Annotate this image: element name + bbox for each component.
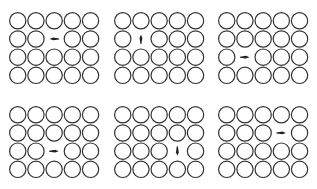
panel-3 (217, 11, 309, 85)
circle (28, 31, 44, 47)
circle (133, 161, 149, 177)
arrow-right-icon (276, 132, 286, 135)
circle (133, 107, 149, 123)
circle (187, 125, 203, 141)
circle (255, 125, 271, 141)
circle (64, 67, 80, 83)
circle-grid (217, 105, 309, 179)
circle (291, 49, 307, 65)
circle (115, 13, 131, 29)
circle (64, 49, 80, 65)
circle (115, 161, 131, 177)
circle (28, 67, 44, 83)
circle (219, 67, 235, 83)
circle (169, 107, 185, 123)
circle (64, 125, 80, 141)
circle (255, 49, 271, 65)
circle (115, 31, 131, 47)
circle (10, 67, 26, 83)
circle (273, 13, 289, 29)
circle (151, 49, 167, 65)
circle (273, 143, 289, 159)
circle (219, 107, 235, 123)
circle (151, 31, 167, 47)
circle (237, 161, 253, 177)
circle (10, 31, 26, 47)
circle (169, 161, 185, 177)
circle (237, 143, 253, 159)
circle (187, 67, 203, 83)
circle (151, 67, 167, 83)
circle (169, 49, 185, 65)
circle (291, 67, 307, 83)
circle (255, 161, 271, 177)
circle (291, 13, 307, 29)
circle (237, 107, 253, 123)
circle (28, 125, 44, 141)
circle-grid (8, 105, 100, 179)
arrow-right-icon (240, 56, 250, 59)
circle (255, 31, 271, 47)
circle (133, 143, 149, 159)
circle (255, 13, 271, 29)
circle (115, 107, 131, 123)
circle-grid (113, 11, 205, 85)
circle (273, 31, 289, 47)
panel-4 (8, 105, 100, 179)
circle-grid (217, 11, 309, 85)
circle (237, 125, 253, 141)
circle (187, 31, 203, 47)
circle (28, 49, 44, 65)
circle (169, 125, 185, 141)
circle (237, 13, 253, 29)
circle (169, 31, 185, 47)
circle (10, 143, 26, 159)
circle (291, 161, 307, 177)
circle (46, 125, 62, 141)
circle (10, 107, 26, 123)
circle (133, 13, 149, 29)
circle (82, 107, 98, 123)
circle (64, 107, 80, 123)
circle-grid (8, 11, 100, 85)
circle (273, 107, 289, 123)
panel-2 (113, 11, 205, 85)
circle (133, 49, 149, 65)
circle (291, 125, 307, 141)
circle (10, 161, 26, 177)
circle (187, 143, 203, 159)
circle (115, 49, 131, 65)
circle (219, 31, 235, 47)
circle (10, 125, 26, 141)
circle (255, 143, 271, 159)
circle (151, 125, 167, 141)
circle (64, 161, 80, 177)
circle (82, 125, 98, 141)
circle (273, 67, 289, 83)
panel-1 (8, 11, 100, 85)
circle (46, 49, 62, 65)
circle (273, 161, 289, 177)
arrow-up-icon (140, 34, 143, 44)
circle (46, 13, 62, 29)
circle (255, 67, 271, 83)
panel-6 (217, 105, 309, 179)
circle (187, 49, 203, 65)
circle (28, 143, 44, 159)
circle (255, 107, 271, 123)
circle (169, 13, 185, 29)
circle (82, 161, 98, 177)
circle (187, 13, 203, 29)
circle (46, 67, 62, 83)
circle (151, 13, 167, 29)
circle (28, 161, 44, 177)
circle (291, 31, 307, 47)
circle (273, 49, 289, 65)
circle (82, 67, 98, 83)
circle (64, 31, 80, 47)
circle (151, 143, 167, 159)
arrow-right-icon (49, 150, 59, 153)
circle (237, 67, 253, 83)
circle (291, 143, 307, 159)
circle (219, 143, 235, 159)
